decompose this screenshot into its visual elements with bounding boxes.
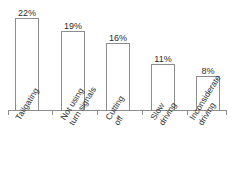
bar-chart: 22% 19% 16% 11% 8% Tailgating Not using … xyxy=(0,0,233,180)
x-axis-tick xyxy=(52,110,53,115)
bar-value-label: 16% xyxy=(109,33,127,43)
x-axis-tick xyxy=(226,110,227,115)
bar-value-label: 19% xyxy=(64,21,82,31)
x-axis-tick xyxy=(142,110,143,115)
chart-title-strip xyxy=(0,0,233,7)
x-axis-tick xyxy=(8,110,9,115)
bar-value-label: 22% xyxy=(18,8,36,18)
bar-value-label: 11% xyxy=(154,54,171,64)
x-axis-tick xyxy=(97,110,98,115)
